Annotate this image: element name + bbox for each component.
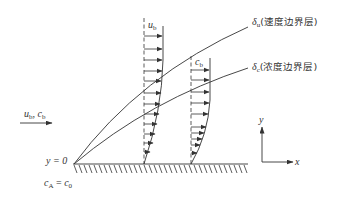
inflow-label: ub, cb (24, 109, 45, 121)
velocity-profile (144, 18, 163, 164)
boundary-layer-diagram (0, 0, 338, 199)
wall-concentration-label: cA = c0 (44, 178, 72, 190)
flat-plate-wall (73, 164, 248, 173)
concentration-profile (191, 56, 210, 164)
concentration-boundary-layer-label: δc(浓度边界层) (252, 62, 317, 74)
concentration-boundary-layer-curve (74, 68, 248, 164)
wall-hatching (74, 165, 247, 173)
x-axis-label: x (295, 157, 299, 167)
velocity-boundary-layer-label: δu(速度边界层) (252, 17, 318, 29)
coordinate-axes (262, 127, 293, 162)
y-axis-label: y (259, 115, 263, 125)
origin-label: y = 0 (46, 156, 67, 166)
concentration-profile-label: cb (195, 57, 203, 69)
velocity-profile-label: ub (148, 20, 157, 32)
